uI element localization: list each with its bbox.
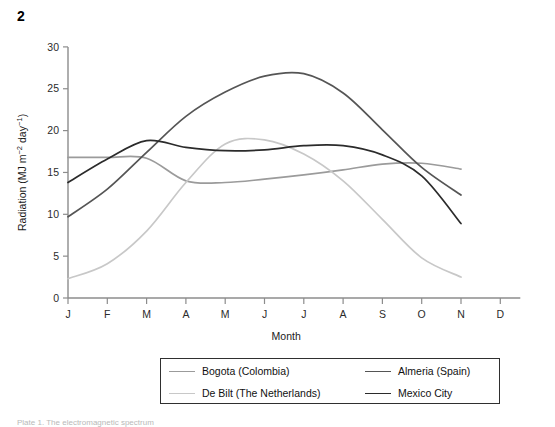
x-axis-tick-label: F xyxy=(104,308,110,320)
x-axis-tick-label: N xyxy=(457,308,465,320)
figure-caption: Plate 1. The electromagnetic spectrum xyxy=(17,418,357,427)
x-axis-tick-label: A xyxy=(340,308,347,320)
x-axis-tick-label: A xyxy=(182,308,189,320)
legend-label: De Bilt (The Netherlands) xyxy=(202,388,320,399)
chart-legend: Bogota (Colombia)Almeria (Spain)De Bilt … xyxy=(160,358,500,404)
legend-line-swatch-icon xyxy=(169,393,195,394)
legend-label: Bogota (Colombia) xyxy=(202,366,290,377)
x-axis-tick-label: J xyxy=(301,308,306,320)
x-axis-tick-label: J xyxy=(262,308,267,320)
y-axis-tick-label: 20 xyxy=(47,124,59,136)
legend-entry-3[interactable]: Mexico City xyxy=(365,382,509,404)
y-axis-title: Radiation (MJ m−2 day−1) xyxy=(15,114,29,231)
y-axis-tick-label: 15 xyxy=(47,166,59,178)
chart-series xyxy=(68,72,461,278)
y-axis-tick-label: 5 xyxy=(53,250,59,262)
x-axis-tick-label: D xyxy=(497,308,505,320)
y-axis-tick-label: 0 xyxy=(53,292,59,304)
legend-entry-1[interactable]: De Bilt (The Netherlands) xyxy=(169,382,365,404)
y-axis-tick-label: 25 xyxy=(47,82,59,94)
x-axis-tick-label: J xyxy=(65,308,70,320)
legend-label: Mexico City xyxy=(398,388,452,399)
x-axis-tick-label: M xyxy=(142,308,151,320)
series-line-3 xyxy=(68,140,461,223)
legend-entry-2[interactable]: Almeria (Spain) xyxy=(365,360,509,382)
chart-axes xyxy=(63,47,520,304)
chart-labels: 051015202530JFMAMJJASONDMonthRadiation (… xyxy=(15,41,505,343)
legend-line-swatch-icon xyxy=(365,393,391,394)
legend-line-swatch-icon xyxy=(169,371,195,372)
series-line-2 xyxy=(68,72,461,216)
legend-entry-0[interactable]: Bogota (Colombia) xyxy=(169,360,365,382)
x-axis-tick-label: M xyxy=(221,308,230,320)
figure-page: 2 051015202530JFMAMJJASONDMonthRadiation… xyxy=(0,0,555,427)
y-axis-tick-label: 30 xyxy=(47,41,59,53)
x-axis-title: Month xyxy=(272,330,301,342)
y-axis-tick-label: 10 xyxy=(47,208,59,220)
x-axis-tick-label: S xyxy=(379,308,386,320)
series-line-0 xyxy=(68,156,461,183)
x-axis-tick-label: O xyxy=(418,308,426,320)
series-line-1 xyxy=(68,139,461,279)
legend-grid: Bogota (Colombia)Almeria (Spain)De Bilt … xyxy=(161,359,499,403)
legend-line-swatch-icon xyxy=(365,371,391,372)
legend-label: Almeria (Spain) xyxy=(398,366,470,377)
